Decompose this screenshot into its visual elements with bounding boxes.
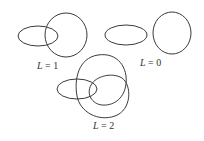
label-l2: L = 2 xyxy=(93,120,114,131)
l0-circle xyxy=(153,12,191,54)
l1-ellipse xyxy=(18,26,58,46)
l1-circle xyxy=(45,13,87,57)
label-l0: L = 0 xyxy=(140,57,161,68)
label-eq: = 1 xyxy=(43,60,59,71)
label-eq: = 0 xyxy=(146,57,162,68)
l2-looped-curve xyxy=(76,55,129,118)
label-eq: = 2 xyxy=(99,120,115,131)
label-l1: L = 1 xyxy=(37,60,58,71)
l0-ellipse xyxy=(105,25,147,45)
